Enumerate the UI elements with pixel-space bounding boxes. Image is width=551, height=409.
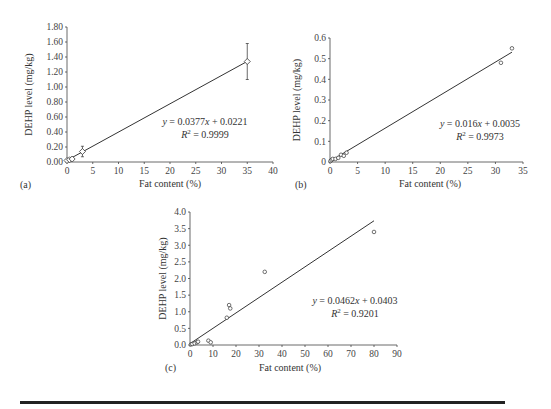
x-tick-label: 70 [346,349,356,359]
y-tick-label: 1.20 [46,67,63,77]
r-squared: R2 = 0.9999 [180,128,229,140]
data-point [510,47,514,51]
x-tick-label: 30 [217,166,227,176]
chart-panel-c: 0.00.51.01.52.02.53.03.54.00102030405060… [157,207,402,374]
data-point [499,61,503,65]
y-tick-label: 0.00 [46,157,63,167]
x-tick-label: 25 [191,166,201,176]
data-point [225,316,229,320]
trend-line [190,221,374,344]
y-tick-label: 1.0 [174,307,186,317]
y-tick-label: 0.5 [314,54,326,64]
x-tick-label: 0 [65,166,70,176]
y-axis-label: DEHP level (mg/kg) [157,237,169,319]
trend-line [330,52,512,161]
y-axis-label: DEHP level (mg/kg) [291,59,303,141]
bottom-rule [20,401,505,404]
x-tick-label: 20 [436,166,446,176]
x-tick-label: 50 [300,349,310,359]
x-tick-label: 5 [90,166,95,176]
data-point [372,230,376,234]
y-tick-label: 0.1 [314,137,326,147]
y-tick-label: 0.5 [174,324,186,334]
y-tick-label: 1.80 [46,22,63,32]
x-tick-label: 30 [254,349,264,359]
data-point [244,59,250,65]
x-tick-label: 10 [380,166,390,176]
x-tick-label: 60 [323,349,333,359]
data-point [345,151,349,155]
data-point [228,307,232,311]
x-tick-label: 90 [392,349,402,359]
y-tick-label: 1.00 [46,82,63,92]
panel-label: (c) [165,362,176,374]
panel-label: (b) [295,179,307,191]
x-tick-label: 20 [165,166,175,176]
x-axis-label: Fat content (%) [399,178,461,190]
data-point [196,340,200,344]
y-tick-label: 0.6 [314,33,326,43]
y-tick-label: 0.4 [314,75,326,85]
chart-panel-a: 0.000.200.400.600.801.001.201.401.601.80… [20,22,278,191]
x-tick-label: 80 [369,349,379,359]
y-tick-label: 0.20 [46,142,63,152]
y-tick-label: 0.40 [46,127,63,137]
regression-equation: y = 0.0377x + 0.0221 [161,116,247,127]
data-point [79,149,85,155]
y-tick-label: 0.3 [314,95,326,105]
y-tick-label: 3.0 [174,241,186,251]
x-axis-label: Fat content (%) [139,178,201,190]
y-tick-label: 1.40 [46,52,63,62]
x-tick-label: 35 [243,166,253,176]
regression-equation: y = 0.0462x + 0.0403 [311,295,397,306]
trend-line [67,61,247,160]
y-tick-label: 0.2 [314,116,326,126]
x-tick-label: 15 [140,166,150,176]
y-tick-label: 2.0 [174,274,186,284]
regression-equation: y = 0.016x + 0.0035 [439,118,520,129]
x-tick-label: 35 [518,166,528,176]
figure-canvas: 0.000.200.400.600.801.001.201.401.601.80… [0,0,551,409]
x-axis-label: Fat content (%) [259,362,321,374]
data-point [209,341,213,345]
x-tick-label: 10 [114,166,124,176]
chart-panel-b: 00.10.20.30.40.50.605101520253035Fat con… [291,33,528,191]
y-tick-label: 4.0 [174,207,186,217]
x-tick-label: 5 [355,166,360,176]
x-tick-label: 0 [328,166,333,176]
data-point [263,270,267,274]
y-tick-label: 2.5 [174,257,186,267]
y-tick-label: 1.60 [46,37,63,47]
x-tick-label: 10 [208,349,218,359]
x-tick-label: 0 [188,349,193,359]
y-tick-label: 1.5 [174,290,186,300]
x-tick-label: 40 [277,349,287,359]
x-tick-label: 30 [491,166,501,176]
y-tick-label: 3.5 [174,224,186,234]
r-squared: R2 = 0.9973 [455,130,504,142]
y-tick-label: 0.60 [46,112,63,122]
x-tick-label: 25 [463,166,473,176]
y-tick-label: 0.0 [174,340,186,350]
x-tick-label: 20 [231,349,241,359]
panel-label: (a) [20,179,31,191]
data-point [336,156,340,160]
y-axis-label: DEHP level (mg/kg) [23,53,35,135]
x-tick-label: 15 [408,166,418,176]
data-point [342,154,346,158]
y-tick-label: 0.80 [46,97,63,107]
x-tick-label: 40 [268,166,278,176]
y-tick-label: 0 [321,157,326,167]
r-squared: R2 = 0.9201 [330,307,379,319]
